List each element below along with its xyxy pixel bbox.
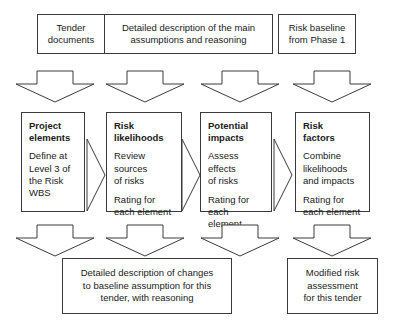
- text-line: assumptions and reasoning: [122, 34, 255, 46]
- text-line: Review: [114, 150, 175, 162]
- text-line: the Risk: [29, 175, 78, 187]
- text-line: WBS: [29, 187, 78, 199]
- text-line: Combine: [303, 150, 363, 162]
- text-line: assessment: [303, 280, 361, 293]
- text-line: Rating for: [208, 194, 265, 206]
- stage-box-risk-likelihoods: Risk likelihoods Review sources of risks…: [106, 112, 182, 212]
- text-line: elements: [29, 132, 78, 144]
- down-arrow-icon: [292, 70, 372, 103]
- stage-title: Risk likelihoods: [114, 120, 175, 144]
- down-arrow-icon: [200, 224, 280, 257]
- box-tender-documents: Tender documents: [37, 14, 105, 54]
- stage-body: Assess effects of risks: [208, 150, 265, 187]
- text-line: of risks: [208, 175, 265, 187]
- stage-title: Project elements: [29, 120, 78, 144]
- stage-title: Risk factors: [303, 120, 363, 144]
- stage-body: Review sources of risks: [114, 150, 175, 187]
- spacer: [114, 187, 175, 194]
- text-line: from Phase 1: [289, 34, 346, 46]
- text-line: documents: [48, 34, 94, 46]
- down-arrow-icon: [105, 224, 185, 257]
- stage-extra: Rating for each element: [303, 194, 363, 218]
- diagram-canvas: Tender documents Detailed description of…: [0, 0, 395, 333]
- text-line: effects: [208, 163, 265, 175]
- text-line: Project: [29, 120, 78, 132]
- stage-box-risk-factors: Risk factors Combine likelihoods and imp…: [295, 112, 370, 212]
- spacer: [208, 187, 265, 194]
- text-line: Tender: [48, 22, 94, 34]
- stage-body: Combine likelihoods and impacts: [303, 150, 363, 187]
- text-line: each element: [114, 206, 175, 218]
- text-line: Risk: [114, 120, 175, 132]
- text-line: for this tender: [303, 292, 361, 305]
- text-line: likelihoods: [303, 163, 363, 175]
- text-line: Risk baseline: [289, 22, 346, 34]
- text-line: Risk: [303, 120, 363, 132]
- text-line: likelihoods: [114, 132, 175, 144]
- text-line: Rating for: [114, 194, 175, 206]
- text-line: Potential: [208, 120, 265, 132]
- spacer: [303, 187, 363, 194]
- chevron-right-icon: [86, 138, 106, 212]
- down-arrow-icon: [15, 70, 95, 103]
- stage-body: Define at Level 3 of the Risk WBS: [29, 150, 78, 199]
- box-changes-to-baseline: Detailed description of changes to basel…: [62, 258, 232, 314]
- box-detailed-description-text: Detailed description of the main assumpt…: [122, 22, 255, 46]
- stage-extra: Rating for each element: [114, 194, 175, 218]
- box-tender-documents-text: Tender documents: [48, 22, 94, 46]
- box-risk-baseline: Risk baseline from Phase 1: [278, 14, 356, 54]
- text-line: Assess: [208, 150, 265, 162]
- stage-title: Potential impacts: [208, 120, 265, 144]
- text-line: Detailed description of the main: [122, 22, 255, 34]
- stage-box-potential-impacts: Potential impacts Assess effects of risk…: [200, 112, 272, 212]
- text-line: to baseline assumption for this: [81, 280, 214, 293]
- text-line: factors: [303, 132, 363, 144]
- text-line: tender, with reasoning: [81, 292, 214, 305]
- chevron-right-icon: [273, 138, 293, 212]
- chevron-right-icon: [181, 138, 201, 212]
- down-arrow-icon: [15, 224, 95, 257]
- box-detailed-description: Detailed description of the main assumpt…: [104, 14, 273, 54]
- box-risk-baseline-text: Risk baseline from Phase 1: [289, 22, 346, 46]
- down-arrow-icon: [105, 70, 185, 103]
- text-line: Detailed description of changes: [81, 267, 214, 280]
- text-line: Level 3 of: [29, 163, 78, 175]
- box-changes-to-baseline-text: Detailed description of changes to basel…: [81, 267, 214, 305]
- text-line: sources: [114, 163, 175, 175]
- text-line: each element: [303, 206, 363, 218]
- text-line: of risks: [114, 175, 175, 187]
- box-modified-risk-assessment: Modified risk assessment for this tender: [287, 258, 378, 314]
- text-line: Define at: [29, 150, 78, 162]
- text-line: Rating for: [303, 194, 363, 206]
- text-line: and impacts: [303, 175, 363, 187]
- text-line: impacts: [208, 132, 265, 144]
- text-line: Modified risk: [303, 267, 361, 280]
- down-arrow-icon: [200, 70, 280, 103]
- stage-box-project-elements: Project elements Define at Level 3 of th…: [21, 112, 85, 212]
- box-modified-risk-assessment-text: Modified risk assessment for this tender: [303, 267, 361, 305]
- down-arrow-icon: [292, 224, 372, 257]
